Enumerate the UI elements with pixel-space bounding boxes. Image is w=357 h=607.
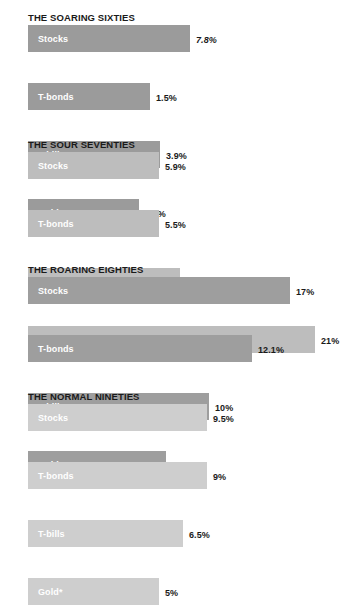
- bar-group: Stocks17%T-bonds12.1%T-bills10%Gold2.8%: [0, 277, 357, 393]
- bar: Stocks: [28, 25, 190, 52]
- bar: Stocks: [28, 277, 290, 304]
- bar-value-label: 9.5%: [213, 414, 234, 424]
- bar-category-label: T-bonds: [38, 344, 74, 354]
- bar-category-label: Stocks: [38, 286, 68, 296]
- bar: T-bonds: [28, 462, 207, 489]
- bar: Stocks: [28, 404, 207, 431]
- bar-group: Stocks9.5%T-bonds9%T-bills6.5%Gold*5%: [0, 404, 357, 520]
- bar-value-label: 9%: [213, 472, 226, 482]
- bar: Stocks: [28, 152, 159, 179]
- bar-row: T-bonds5.5%: [0, 210, 357, 239]
- bar-row: Stocks5.9%: [0, 152, 357, 181]
- panel-title: THE SOUR SEVENTIES: [28, 139, 135, 150]
- bar-row: T-bills6.5%: [0, 520, 357, 549]
- bar-value-label: 7.8%: [196, 35, 217, 45]
- panel-title: THE SOARING SIXTIES: [28, 12, 135, 23]
- bar-value-label: 6.5%: [189, 530, 210, 540]
- panel-title: THE NORMAL NINETIES: [28, 391, 140, 402]
- bar-category-label: Stocks: [38, 34, 68, 44]
- decade-panel: THE NORMAL NINETIESStocks9.5%T-bonds9%T-…: [0, 391, 357, 520]
- decade-panel: THE ROARING EIGHTIESStocks17%T-bonds12.1…: [0, 264, 357, 393]
- bar: T-bonds: [28, 83, 150, 110]
- bar: T-bonds: [28, 210, 159, 237]
- bar-category-label: T-bills: [38, 529, 65, 539]
- bar-category-label: T-bonds: [38, 92, 74, 102]
- bar-row: Stocks9.5%: [0, 404, 357, 433]
- bar-category-label: Stocks: [38, 161, 68, 171]
- bar-row: T-bonds9%: [0, 462, 357, 491]
- bar-row: T-bonds12.1%: [0, 335, 357, 364]
- bar-category-label: T-bonds: [38, 219, 74, 229]
- bar-value-label: 5%: [165, 588, 178, 598]
- bar-category-label: T-bonds: [38, 471, 74, 481]
- bar: T-bills: [28, 520, 183, 547]
- bar: Gold*: [28, 578, 159, 605]
- bar-row: T-bonds1.5%: [0, 83, 357, 112]
- decade-panel: THE SOARING SIXTIESStocks7.8%T-bonds1.5%…: [0, 12, 357, 141]
- bar-group: Stocks7.8%T-bonds1.5%T-bills3.9%Gold*2.2…: [0, 25, 357, 141]
- panel-title: THE ROARING EIGHTIES: [28, 264, 143, 275]
- bar-category-label: Gold*: [38, 587, 63, 597]
- bar-value-label: 12.1%: [258, 345, 284, 355]
- bar-group: Stocks5.9%T-bonds5.5%T-bills6.3%Gold21%: [0, 152, 357, 268]
- decade-panel: THE SOUR SEVENTIESStocks5.9%T-bonds5.5%T…: [0, 139, 357, 268]
- bar: T-bonds: [28, 335, 252, 362]
- bar-value-label: 5.9%: [165, 162, 186, 172]
- bar-row: Stocks17%: [0, 277, 357, 306]
- bar-row: Stocks7.8%: [0, 25, 357, 54]
- bar-category-label: Stocks: [38, 413, 68, 423]
- bar-value-label: 17%: [296, 287, 314, 297]
- bar-row: Gold*5%: [0, 578, 357, 607]
- bar-value-label: 5.5%: [165, 220, 186, 230]
- bar-value-label: 1.5%: [156, 93, 177, 103]
